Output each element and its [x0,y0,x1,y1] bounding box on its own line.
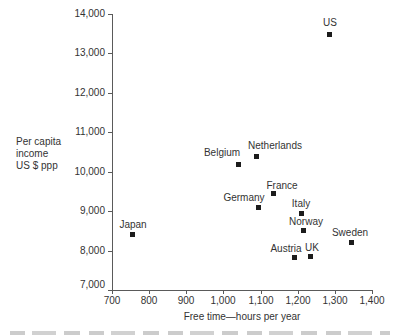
y-axis-tick [108,172,112,173]
x-axis-tick-label: 1,400 [347,295,396,306]
x-axis-tick [149,290,150,294]
y-axis-tick-label: 8,000 [40,245,105,256]
data-point-marker-uk [308,254,313,259]
data-point-label-us: US [285,17,375,28]
y-axis-tick [108,14,112,15]
y-axis-tick-label: 11,000 [40,126,105,137]
y-axis-tick-label: 12,000 [40,87,105,98]
y-axis-tick-label: 10,000 [40,166,105,177]
y-axis-line [112,14,113,291]
data-point-label-sweden: Sweden [305,227,395,238]
data-point-marker-sweden [349,240,354,245]
data-point-label-netherlands: Netherlands [230,140,320,151]
data-point-marker-belgium [236,162,241,167]
data-point-marker-japan [130,232,135,237]
data-point-marker-austria [292,255,297,260]
x-axis-tick [112,290,113,294]
data-point-label-france: France [237,180,327,191]
data-point-marker-netherlands [254,154,259,159]
x-axis-tick [372,290,373,294]
y-axis-tick [108,211,112,212]
data-point-label-japan: Japan [88,219,178,230]
data-point-label-italy: Italy [256,198,346,209]
x-axis-tick [186,290,187,294]
scatter-plot-figure: Per capita income US $ ppp 7,0008,0009,0… [0,0,396,335]
data-point-marker-france [271,191,276,196]
x-axis-tick [335,290,336,294]
x-axis-tick [223,290,224,294]
data-point-marker-us [327,32,332,37]
y-axis-tick-label: 9,000 [40,205,105,216]
y-axis-tick [108,132,112,133]
plot-area: 7,0008,0009,00010,00011,00012,00013,0001… [0,0,396,335]
cropped-caption-artifact [10,331,390,335]
y-axis-tick-label: 14,000 [40,8,105,19]
x-axis-line [112,290,373,291]
y-axis-tick [108,93,112,94]
y-axis-tick-label: 7,000 [40,279,105,290]
data-point-label-norway: Norway [261,216,351,227]
y-axis-tick-label: 13,000 [40,47,105,58]
x-axis-title: Free time—hours per year [112,311,372,322]
y-axis-tick [108,251,112,252]
x-axis-tick [261,290,262,294]
y-axis-tick [108,53,112,54]
data-point-label-uk: UK [267,242,357,253]
x-axis-tick [298,290,299,294]
